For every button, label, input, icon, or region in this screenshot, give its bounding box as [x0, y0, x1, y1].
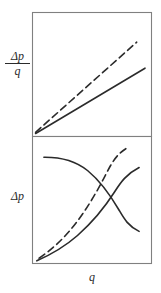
top-panel-y-axis-label: Δp q [4, 50, 31, 77]
y-axis-label-denominator: q [4, 64, 31, 77]
figure-container: Δp q Δp q [0, 0, 161, 293]
bottom-panel-y-axis-label: Δp [4, 190, 31, 202]
y-axis-label-numerator: Δp [4, 50, 31, 63]
x-axis-label: q [32, 271, 152, 283]
figure-canvas [0, 0, 161, 293]
